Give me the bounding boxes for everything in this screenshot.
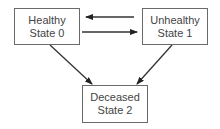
node-deceased-state-2: Deceased State 2 [82, 85, 148, 123]
node-label-line1: Healthy [28, 14, 65, 27]
node-label-line2: State 1 [158, 27, 193, 40]
node-label-line1: Unhealthy [150, 14, 200, 27]
node-label-line1: Deceased [90, 91, 140, 104]
node-label-line2: State 2 [98, 104, 133, 117]
node-healthy-state-0: Healthy State 0 [14, 8, 80, 45]
node-unhealthy-state-1: Unhealthy State 1 [142, 8, 208, 45]
arrow-unhealthy-to-deceased [137, 45, 172, 84]
node-label-line2: State 0 [30, 27, 65, 40]
arrow-healthy-to-deceased [50, 45, 92, 84]
